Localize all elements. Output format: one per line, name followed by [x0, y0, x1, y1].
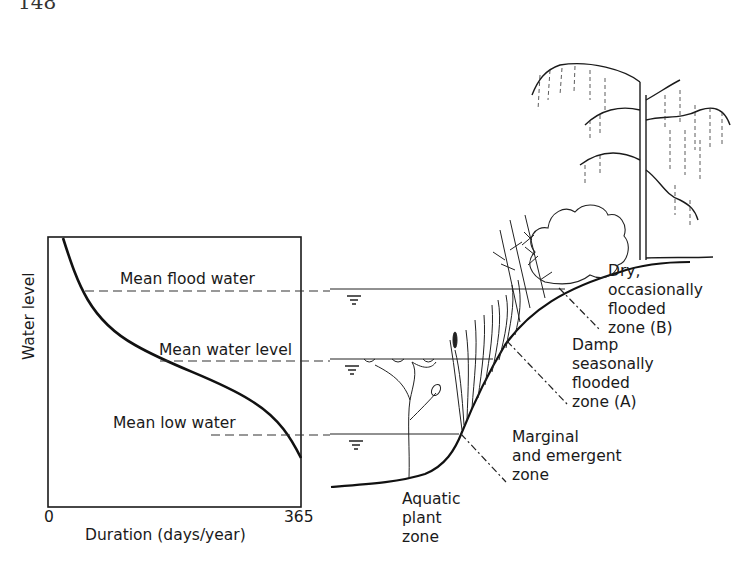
zone-aquatic-label: Aquatic plant zone: [402, 490, 460, 547]
aquatic-plant-icon: [364, 359, 442, 478]
water-symbol-icons: [345, 296, 363, 449]
zone-damp-label: Damp seasonally flooded zone (A): [572, 336, 654, 412]
zone-marginal-label: Marginal and emergent zone: [512, 428, 622, 485]
water-level-lines: [330, 289, 565, 434]
label-mean-low-water: Mean low water: [113, 414, 236, 433]
reeds-icon: [450, 280, 520, 430]
y-axis-label: Water level: [20, 272, 38, 360]
zone-dry-label: Dry, occasionally flooded zone (B): [608, 262, 703, 338]
x-axis-min: 0: [44, 508, 54, 526]
label-mean-flood-water: Mean flood water: [120, 270, 255, 289]
x-axis-max: 365: [284, 508, 314, 526]
x-axis-label: Duration (days/year): [85, 526, 246, 544]
willow-foliage: [538, 66, 722, 225]
label-mean-water-level: Mean water level: [159, 341, 292, 360]
